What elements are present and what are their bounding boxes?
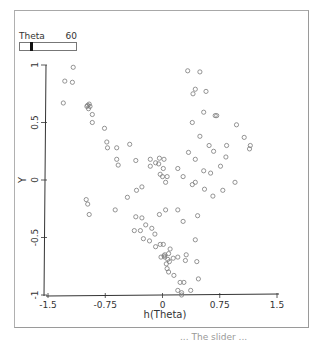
scatter-plot: -1.5-0.7500.751.5-1-0.500.51 h(Theta) Y: [0, 0, 320, 341]
data-point: [186, 69, 190, 73]
data-point: [70, 80, 74, 84]
data-point: [134, 215, 138, 219]
data-point: [176, 255, 180, 259]
data-point: [191, 92, 195, 96]
y-tick-label: -0.5: [30, 229, 40, 247]
data-point: [176, 208, 180, 212]
data-point: [86, 202, 90, 206]
data-point: [193, 238, 197, 242]
data-point: [196, 277, 200, 281]
data-point: [181, 175, 185, 179]
data-point: [71, 65, 75, 69]
data-point: [113, 208, 117, 212]
data-point: [154, 245, 158, 249]
data-point: [144, 223, 148, 227]
data-point: [193, 87, 197, 91]
data-point: [164, 208, 168, 212]
data-point: [224, 155, 228, 159]
data-point: [157, 212, 161, 216]
data-point: [90, 112, 94, 116]
data-point: [125, 195, 129, 199]
data-point: [61, 101, 65, 105]
data-point: [84, 198, 88, 202]
data-point: [140, 216, 144, 220]
data-point: [105, 146, 109, 150]
data-point: [190, 183, 194, 187]
data-point: [164, 262, 168, 266]
data-point: [105, 140, 109, 144]
data-point: [202, 110, 206, 114]
data-point: [150, 226, 154, 230]
data-point: [209, 171, 213, 175]
data-point: [204, 89, 208, 93]
x-tick-label: 1.5: [270, 300, 284, 310]
data-point: [147, 239, 151, 243]
data-point: [234, 123, 238, 127]
data-point: [196, 214, 200, 218]
data-point: [183, 258, 187, 262]
data-point: [189, 288, 193, 292]
data-point: [233, 180, 237, 184]
data-point: [87, 212, 91, 216]
data-point: [218, 164, 222, 168]
data-point: [63, 79, 67, 83]
data-point: [161, 166, 165, 170]
data-point: [148, 157, 152, 161]
data-point: [132, 229, 136, 233]
data-point: [198, 134, 202, 138]
data-point: [161, 242, 165, 246]
data-point: [193, 157, 197, 161]
data-point: [164, 180, 168, 184]
x-tick-label: -0.75: [94, 300, 117, 310]
y-tick-label: 0.5: [30, 115, 40, 129]
data-point: [211, 194, 215, 198]
x-axis-label: h(Theta): [144, 309, 187, 320]
data-point: [138, 229, 142, 233]
y-axis-line: [44, 65, 46, 296]
data-point: [153, 232, 157, 236]
data-point: [140, 185, 144, 189]
data-point: [116, 163, 120, 167]
data-point: [115, 146, 119, 150]
data-point: [115, 157, 119, 161]
x-tick-label: -1.5: [39, 300, 57, 310]
data-point: [128, 142, 132, 146]
clipped-caption-text: ... The slider ...: [180, 332, 247, 341]
data-point: [134, 158, 138, 162]
data-point: [221, 188, 225, 192]
x-tick-label: 0.75: [210, 300, 230, 310]
y-axis-label: Y: [17, 176, 28, 184]
data-point: [172, 273, 176, 277]
data-point: [190, 120, 194, 124]
y-tick-label: 0: [30, 177, 40, 183]
data-point: [90, 120, 94, 124]
data-point: [186, 150, 190, 154]
data-point: [181, 219, 185, 223]
data-point: [157, 156, 161, 160]
data-point: [225, 143, 229, 147]
data-point: [134, 188, 138, 192]
y-tick-label: 1: [30, 62, 40, 68]
data-point: [148, 164, 152, 168]
data-point: [176, 166, 180, 170]
data-point: [162, 157, 166, 161]
data-point: [198, 70, 202, 74]
data-point: [141, 237, 145, 241]
y-tick-label: -1: [30, 291, 40, 300]
data-point: [212, 149, 216, 153]
data-point: [168, 247, 172, 251]
data-point: [102, 126, 106, 130]
plot-axes: -1.5-0.7500.751.5-1-0.500.51: [30, 62, 284, 310]
data-point: [207, 143, 211, 147]
data-point: [171, 256, 175, 260]
data-point: [184, 253, 188, 257]
data-point: [202, 187, 206, 191]
data-point: [195, 260, 199, 264]
data-point: [165, 175, 169, 179]
data-point: [202, 169, 206, 173]
data-points: [61, 65, 252, 297]
data-point: [242, 135, 246, 139]
